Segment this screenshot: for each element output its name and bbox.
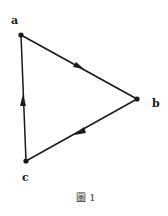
arrow-b-to-c-icon [74, 127, 86, 135]
node-a [18, 32, 23, 37]
node-b [134, 96, 139, 101]
node-label-a: a [11, 15, 18, 26]
node-label-c: c [22, 172, 29, 183]
node-label-b: b [152, 98, 160, 109]
arrow-c-to-a-icon [20, 94, 26, 106]
node-c [23, 158, 28, 163]
arrow-a-to-b-icon [73, 62, 84, 69]
figure-caption: 圖 1 [76, 193, 96, 203]
